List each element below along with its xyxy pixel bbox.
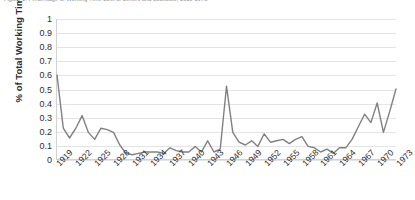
y-axis-title: % of Total Working Time: [13, 0, 24, 113]
y-tick-label: 0: [26, 155, 52, 165]
plot-area: [56, 19, 396, 160]
y-tick-label: 0.6: [26, 70, 52, 80]
y-axis-tick-labels: 10.90.80.70.60.50.40.30.20.10: [26, 19, 52, 160]
series-polyline: [57, 75, 396, 155]
line-series: [57, 19, 396, 159]
y-tick-label: 0.5: [26, 85, 52, 95]
y-tick-label: 0.7: [26, 56, 52, 66]
y-tick-label: 1: [26, 14, 52, 24]
y-tick-label: 0.1: [26, 141, 52, 151]
chart-title: Figure 1: Percentage of Working Time Los…: [4, 0, 404, 3]
x-axis-tick-labels: 1919192219251928193119341937194019431946…: [56, 161, 396, 200]
y-tick-label: 0.8: [26, 42, 52, 52]
y-tick-label: 0.2: [26, 127, 52, 137]
y-tick-label: 0.4: [26, 99, 52, 109]
x-tick-label: 1973: [394, 147, 415, 168]
y-tick-label: 0.9: [26, 28, 52, 38]
y-tick-label: 0.3: [26, 113, 52, 123]
